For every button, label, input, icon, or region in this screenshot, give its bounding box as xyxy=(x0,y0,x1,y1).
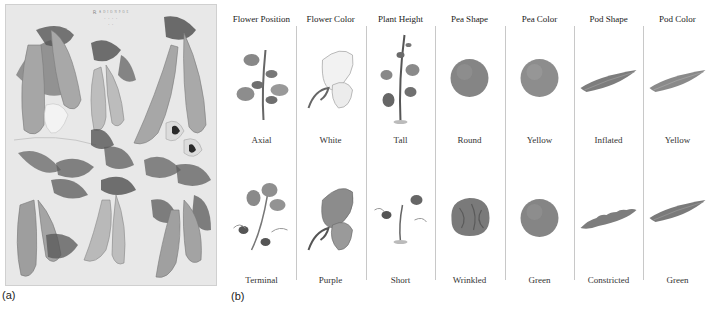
constricted-pod-icon xyxy=(578,170,639,265)
panel-b-label: (b) xyxy=(231,290,244,302)
column-header: Pea Shape xyxy=(435,14,504,24)
terminal-flower-plant-icon xyxy=(231,170,292,265)
column-header: Flower Position xyxy=(227,14,296,24)
purple-flower-icon xyxy=(300,170,361,265)
column-header: Pea Color xyxy=(505,14,574,24)
dominant-trait-label: Tall xyxy=(366,135,435,145)
column-header: Pod Color xyxy=(643,14,712,24)
plate-title-line: · · xyxy=(6,22,216,28)
short-plant-icon xyxy=(370,170,431,265)
column-divider xyxy=(366,26,367,280)
recessive-trait-label: Constricted xyxy=(574,275,643,285)
column-divider xyxy=(296,26,297,280)
trait-column-flower-color: Flower Color White Purple xyxy=(296,0,365,290)
column-header: Flower Color xyxy=(296,14,365,24)
dominant-trait-label: Yellow xyxy=(643,135,712,145)
dominant-trait-label: Yellow xyxy=(505,135,574,145)
recessive-trait-label: Wrinkled xyxy=(435,275,504,285)
botanical-plate-illustration: Ꭱ ᴬ ᴰ ᴵ ᴼ ᴺ ᴾ ᴼ ᴱ · · · · · · xyxy=(5,4,217,286)
inflated-pod-icon xyxy=(578,30,639,125)
column-divider xyxy=(643,26,644,280)
recessive-trait-label: Terminal xyxy=(227,275,296,285)
dominant-trait-label: Inflated xyxy=(574,135,643,145)
white-flower-icon xyxy=(300,30,361,125)
pea-plants-illustration-icon xyxy=(6,5,216,285)
green-pea-icon xyxy=(509,170,570,265)
recessive-trait-label: Green xyxy=(505,275,574,285)
column-header: Pod Shape xyxy=(574,14,643,24)
column-divider xyxy=(435,26,436,280)
column-divider xyxy=(505,26,506,280)
recessive-trait-label: Short xyxy=(366,275,435,285)
yellow-pea-icon xyxy=(509,30,570,125)
trait-column-pea-shape: Pea Shape Round Wrinkled xyxy=(435,0,504,290)
green-pod-icon xyxy=(647,170,708,265)
trait-column-plant-height: Plant Height Tall Short xyxy=(366,0,435,290)
tall-plant-icon xyxy=(370,30,431,125)
column-header: Plant Height xyxy=(366,14,435,24)
axial-flower-plant-icon xyxy=(231,30,292,125)
trait-column-pod-shape: Pod Shape Inflated Constricted xyxy=(574,0,643,290)
column-divider xyxy=(574,26,575,280)
yellow-pod-icon xyxy=(647,30,708,125)
dominant-trait-label: Round xyxy=(435,135,504,145)
trait-column-flower-position: Flower Position Axial Terminal xyxy=(227,0,296,290)
recessive-trait-label: Green xyxy=(643,275,712,285)
recessive-trait-label: Purple xyxy=(296,275,365,285)
dominant-trait-label: Axial xyxy=(227,135,296,145)
dominant-trait-label: White xyxy=(296,135,365,145)
wrinkled-pea-icon xyxy=(439,170,500,265)
mendel-traits-table: Flower Position Axial Terminal Flower Co… xyxy=(227,0,724,290)
round-pea-icon xyxy=(439,30,500,125)
plate-title: Ꭱ ᴬ ᴰ ᴵ ᴼ ᴺ ᴾ ᴼ ᴱ · · · · · · xyxy=(6,10,216,28)
trait-column-pod-color: Pod Color Yellow Green xyxy=(643,0,712,290)
trait-column-pea-color: Pea Color Yellow Green xyxy=(505,0,574,290)
panel-a-label: (a) xyxy=(2,289,15,301)
